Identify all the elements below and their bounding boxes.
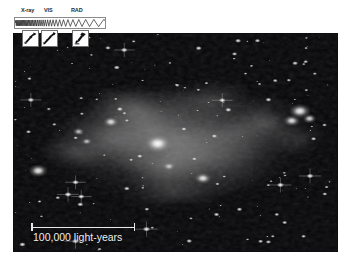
optical-telescope-icon bbox=[41, 30, 58, 47]
screenshot-root: 100,000 light-years X-ray VIS RAD bbox=[0, 0, 347, 259]
spectrum-banner: X-ray VIS RAD bbox=[14, 6, 106, 48]
observatory-icon-row bbox=[22, 30, 106, 48]
radio-telescope-icon bbox=[72, 30, 89, 47]
spectrum-wave-strip bbox=[14, 17, 106, 29]
band-label-rad: RAD bbox=[71, 6, 83, 14]
scale-bar: 100,000 light-years bbox=[31, 219, 161, 249]
band-label-row: X-ray VIS RAD bbox=[14, 6, 106, 17]
x-ray-telescope-icon bbox=[22, 30, 39, 47]
scale-bar-line bbox=[31, 223, 135, 231]
scale-bar-tick-left bbox=[31, 223, 33, 231]
spectrum-wave-graphic bbox=[15, 18, 105, 28]
band-label-vis: VIS bbox=[44, 6, 53, 14]
scale-bar-tick-right bbox=[134, 223, 136, 231]
astronomy-image: 100,000 light-years bbox=[13, 33, 338, 252]
scale-bar-label: 100,000 light-years bbox=[33, 231, 122, 243]
band-label-xray: X-ray bbox=[21, 6, 34, 14]
scale-bar-rule bbox=[31, 227, 135, 229]
